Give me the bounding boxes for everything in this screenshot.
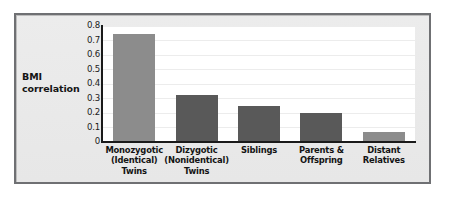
x-axis-category-labels: Monozygotic(Identical)TwinsDizygotic(Non… xyxy=(103,145,415,183)
y-axis-title-line-1: BMI xyxy=(22,71,84,83)
bar xyxy=(113,34,155,141)
bar xyxy=(238,106,280,142)
plot-area xyxy=(103,26,415,142)
gridline xyxy=(103,26,415,27)
y-axis-tick-label: 0.3 xyxy=(78,94,100,103)
bar xyxy=(176,95,218,141)
y-axis-title-line-2: correlation xyxy=(22,83,84,95)
bar xyxy=(300,113,342,142)
x-axis-line xyxy=(101,141,416,143)
y-axis-tick-label: 0.8 xyxy=(78,21,100,30)
y-axis-title: BMI correlation xyxy=(22,71,84,94)
category-label-line: Distant xyxy=(347,145,421,155)
y-axis-tick-label: 0.2 xyxy=(78,108,100,117)
y-axis-tick-label: 0.1 xyxy=(78,123,100,132)
category-label-line: Twins xyxy=(159,166,233,176)
category-label-line: (Nonidentical) xyxy=(159,155,233,165)
y-axis-tick-label: 0.6 xyxy=(78,50,100,59)
x-axis-category-label: DistantRelatives xyxy=(347,145,421,166)
chart-figure: BMI correlation 0.80.70.60.50.40.30.20.1… xyxy=(0,0,453,201)
y-axis-line xyxy=(101,25,103,142)
y-axis-tick-label: 0.4 xyxy=(78,79,100,88)
y-axis-tick-labels: 0.80.70.60.50.40.30.20.10 xyxy=(78,22,100,141)
y-axis-tick-label: 0.5 xyxy=(78,65,100,74)
category-label-line: Relatives xyxy=(347,155,421,165)
y-axis-tick-label: 0.7 xyxy=(78,36,100,45)
